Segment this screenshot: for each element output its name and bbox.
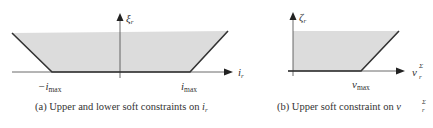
x-axis-label-b: v	[412, 66, 417, 78]
shaded-region-b	[293, 31, 399, 71]
x-axis-arrow-icon	[224, 69, 233, 76]
x-axis-label-b-sup: Σ	[418, 62, 424, 70]
y-axis-label-b: ζr	[299, 11, 306, 25]
caption-a: (a) Upper and lower soft constraints on …	[35, 101, 208, 114]
caption-b-sup: Σ	[421, 98, 426, 105]
x-axis-label-a: ir	[238, 66, 244, 80]
tick-vmax: vmax	[352, 78, 370, 92]
y-axis-arrow-icon	[290, 12, 297, 20]
x-axis-label-b-sub: r	[419, 73, 422, 81]
figure: ξr ir −imax imax (a) Upper and lower sof…	[0, 0, 433, 128]
caption-b: (b) Upper soft constraint on v	[277, 101, 401, 113]
tick-neg-imax: −imax	[38, 80, 62, 94]
tick-imax: imax	[181, 80, 197, 94]
y-axis-label-a: ξr	[126, 12, 134, 26]
caption-b-sub: r	[422, 106, 425, 113]
panel-a: ξr ir −imax imax (a) Upper and lower sof…	[12, 12, 244, 114]
y-axis-arrow-icon	[117, 13, 124, 21]
x-axis-arrow-icon	[396, 68, 405, 75]
panel-b: ζr v Σ r vmax (b) Upper soft constraint …	[277, 11, 426, 113]
